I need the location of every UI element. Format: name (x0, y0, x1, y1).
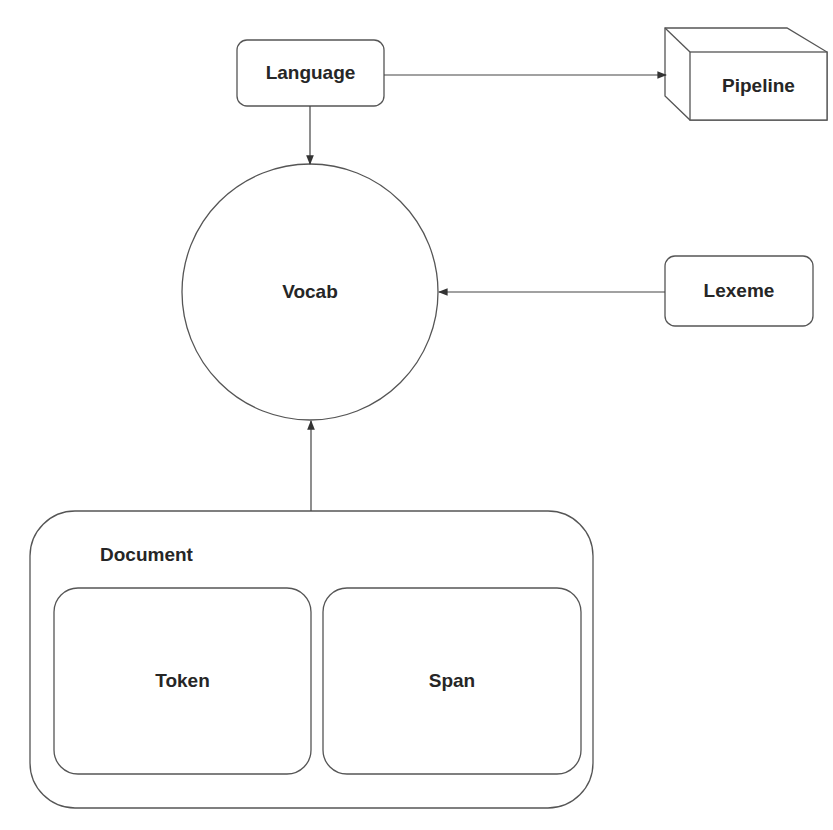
lexeme-label: Lexeme (665, 256, 813, 326)
pipeline-label: Pipeline (690, 52, 827, 120)
language-label: Language (237, 40, 384, 106)
architecture-diagram: Language Pipeline Vocab Lexeme Document … (0, 0, 833, 830)
vocab-label: Vocab (182, 272, 438, 312)
span-label: Span (323, 588, 581, 774)
token-label: Token (54, 588, 311, 774)
document-label: Document (100, 540, 230, 570)
